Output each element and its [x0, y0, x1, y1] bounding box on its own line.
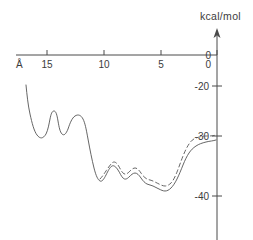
x-tick-label-5: 5: [158, 59, 164, 70]
energy-profile-figure: 15 10 5 0 Å 0 -20 -30 -40 kcal/mol: [0, 0, 253, 240]
y-axis-group: [214, 28, 221, 240]
y-tick-label-0: 0: [205, 50, 211, 61]
dashed-energy-curve: [100, 135, 216, 186]
y-axis-unit-label: kcal/mol: [200, 10, 241, 22]
y-tick-label-minus20: -20: [195, 81, 210, 92]
x-axis-group: [16, 50, 217, 55]
x-axis-unit-label: Å: [16, 58, 23, 70]
y-tick-label-minus30: -30: [195, 131, 210, 142]
x-tick-label-10: 10: [98, 59, 110, 70]
plot-canvas: 15 10 5 0 Å 0 -20 -30 -40 kcal/mol: [0, 0, 253, 240]
x-tick-label-15: 15: [41, 59, 53, 70]
y-tick-label-minus40: -40: [195, 191, 210, 202]
solid-energy-curve: [26, 85, 216, 191]
